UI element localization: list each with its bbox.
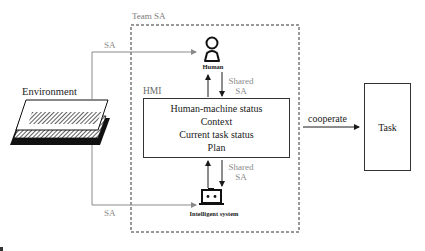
human-icon <box>205 38 219 62</box>
hmi-line-current-task-status: Current task status <box>179 128 253 141</box>
corner-mark <box>0 247 3 251</box>
shared-sa-bottom-line-2: SA <box>228 172 254 182</box>
shared-sa-top-line-2: SA <box>228 86 254 96</box>
hmi-line-context: Context <box>201 115 233 128</box>
human-label: Human <box>196 63 230 70</box>
task-box: Task <box>364 83 411 171</box>
shared-sa-bottom-line-1: Shared <box>228 162 254 172</box>
sa-label-top: SA <box>104 40 116 50</box>
hmi-box: Human-machine status Context Current tas… <box>143 98 290 158</box>
intelligent-system-label: Intelligent system <box>182 210 246 217</box>
sa-label-bottom: SA <box>104 208 116 218</box>
shared-sa-top-line-1: Shared <box>228 76 254 86</box>
intelligent-system-icon <box>199 188 224 205</box>
cooperate-label: cooperate <box>308 113 347 124</box>
hmi-label: HMI <box>143 86 161 96</box>
shared-sa-bottom-label: Shared SA <box>228 162 254 182</box>
environment-label: Environment <box>22 86 77 97</box>
task-label: Task <box>378 122 397 133</box>
shared-sa-top-label: Shared SA <box>228 76 254 96</box>
hmi-line-human-machine-status: Human-machine status <box>171 102 263 115</box>
environment-icon <box>10 100 110 145</box>
team-sa-label: Team SA <box>132 11 166 21</box>
hmi-line-plan: Plan <box>208 141 226 154</box>
